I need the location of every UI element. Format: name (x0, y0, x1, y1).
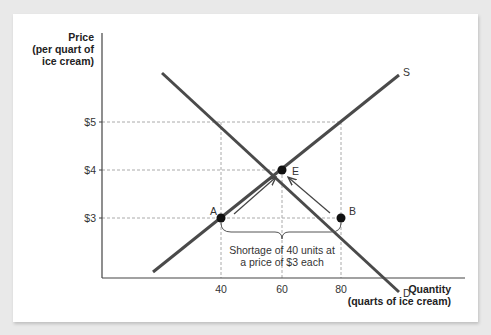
y-tick-4: $4 (84, 164, 96, 176)
point-e (278, 166, 287, 175)
point-e-label: E (292, 165, 299, 177)
supply-label: S (403, 66, 410, 78)
point-b-label: B (349, 205, 356, 217)
supply-demand-chart: A B E S D Shortage of 40 units at a pric… (0, 0, 491, 335)
x-tick-80: 80 (335, 283, 347, 295)
y-axis-title-line1: Price (68, 31, 94, 43)
arrow-a-to-e (234, 178, 275, 214)
point-a (217, 214, 226, 223)
y-tick-3: $3 (84, 212, 96, 224)
x-axis-title-line2: (quarts of ice cream) (348, 295, 451, 307)
shortage-annotation-line1: Shortage of 40 units at (229, 244, 335, 256)
point-a-label: A (210, 205, 217, 217)
x-tick-40: 40 (215, 283, 227, 295)
x-axis-title-line1: Quantity (408, 283, 451, 295)
y-axis-title-line2: (per quart of (32, 43, 94, 55)
shortage-annotation-line2: a price of $3 each (240, 256, 324, 268)
shortage-brace (221, 223, 341, 239)
y-tick-5: $5 (84, 116, 96, 128)
point-b (337, 214, 346, 223)
y-axis-title-line3: ice cream) (42, 55, 94, 67)
supply-curve (153, 75, 399, 272)
x-tick-60: 60 (276, 283, 288, 295)
